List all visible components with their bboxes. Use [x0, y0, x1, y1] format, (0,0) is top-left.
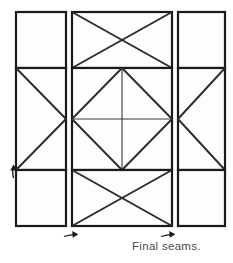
patch-right-bottom-square [178, 170, 225, 226]
quilt-diagram-root: Final seams. [0, 0, 233, 263]
patch-left-bottom-square [16, 170, 66, 226]
quilt-block-diagram [0, 0, 233, 263]
left-column-group [16, 12, 66, 226]
figure-caption: Final seams. [132, 240, 201, 252]
patch-right-top-square [178, 12, 225, 68]
patch-left-top-square [16, 12, 66, 68]
patch-right-middle-rect [178, 68, 225, 170]
patch-left-middle-rect [16, 68, 66, 170]
right-column-group [178, 12, 225, 226]
center-column-group [72, 12, 172, 226]
